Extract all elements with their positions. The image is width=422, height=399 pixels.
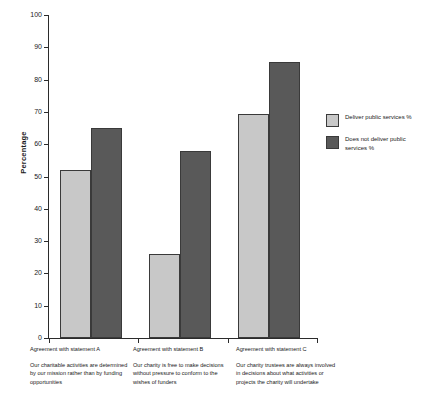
y-axis-tick-label: 0 <box>22 334 42 341</box>
y-axis-tick-label: 60 <box>22 140 42 147</box>
legend-label: Deliver public services % <box>345 113 412 122</box>
y-axis-tick-label: 50 <box>22 173 42 180</box>
legend-item: Does not deliver public services % <box>326 135 420 154</box>
legend-item: Deliver public services % <box>326 113 420 127</box>
x-axis-category-description: Our charity is free to make decisions wi… <box>133 361 233 387</box>
y-axis-tick-label: 100 <box>22 11 42 18</box>
y-axis-tick-labels: 0102030405060708090100 <box>20 0 42 399</box>
bar <box>238 114 269 338</box>
y-axis-tick-label: 80 <box>22 76 42 83</box>
bar <box>91 128 122 338</box>
bar <box>60 170 91 338</box>
x-axis-category-caption: Agreement with statement BOur charity is… <box>133 345 233 387</box>
x-axis-category-caption: Agreement with statement COur charity tr… <box>236 345 336 387</box>
x-axis-tick-mark <box>49 339 50 343</box>
legend-swatch <box>326 136 339 149</box>
y-axis-tick-label: 30 <box>22 237 42 244</box>
x-axis-category-caption: Agreement with statement AOur charitable… <box>30 345 130 387</box>
x-axis-category-description: Our charity trustees are always involved… <box>236 361 336 387</box>
x-axis-category-label: Agreement with statement C <box>236 345 336 354</box>
y-axis-tick-label: 90 <box>22 43 42 50</box>
plot-area <box>49 15 317 338</box>
x-axis-line <box>48 338 318 339</box>
x-axis-category-label: Agreement with statement A <box>30 345 130 354</box>
x-axis-category-label: Agreement with statement B <box>133 345 233 354</box>
legend-label: Does not deliver public services % <box>345 135 420 154</box>
bar <box>149 254 180 338</box>
y-axis-tick-label: 20 <box>22 269 42 276</box>
x-axis-tick-mark <box>317 339 318 343</box>
x-axis-tick-mark <box>138 339 139 343</box>
y-axis-tick-label: 10 <box>22 302 42 309</box>
x-axis-tick-mark <box>228 339 229 343</box>
legend: Deliver public services %Does not delive… <box>326 113 420 162</box>
bar <box>269 62 300 338</box>
legend-swatch <box>326 114 339 127</box>
x-axis-category-description: Our charitable activities are determined… <box>30 361 130 387</box>
grouped-bar-chart: Percentage 0102030405060708090100 Agreem… <box>0 0 422 399</box>
bar <box>180 151 211 338</box>
y-axis-tick-label: 70 <box>22 108 42 115</box>
y-axis-tick-label: 40 <box>22 205 42 212</box>
